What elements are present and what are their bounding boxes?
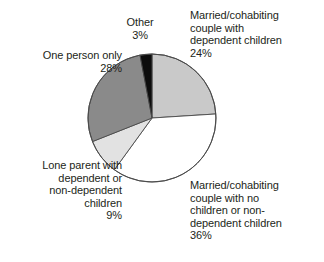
pie-label-one-person-only: One person only 28%: [2, 49, 122, 74]
pie-chart-figure: Married/cohabiting couple with dependent…: [0, 0, 324, 262]
pie-label-married-with-dependent-children: Married/cohabiting couple with dependent…: [190, 9, 322, 59]
pie-slice-married_dependent: [152, 54, 216, 118]
pie-label-married-no-children: Married/cohabiting couple with no childr…: [190, 179, 322, 242]
pie-label-lone-parent: Lone parent with dependent or non-depend…: [0, 159, 122, 222]
pie-label-other: Other 3%: [104, 16, 176, 41]
